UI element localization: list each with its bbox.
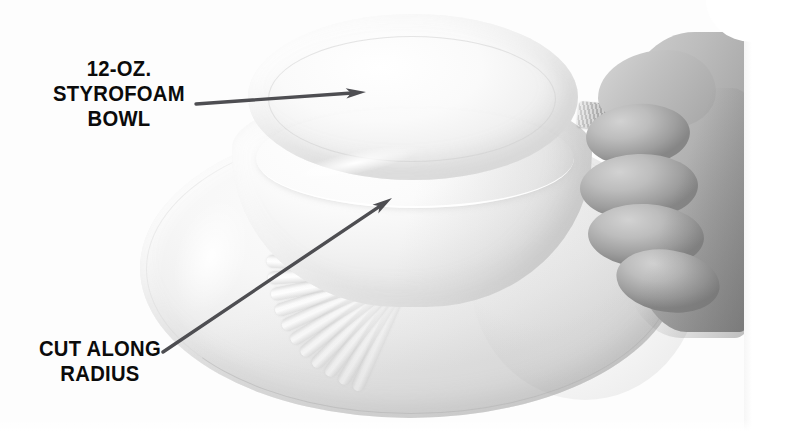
callout-arrow-shaft	[163, 206, 380, 352]
callout-label-styrofoam-bowl: 12-OZ. STYROFOAM BOWL	[37, 56, 201, 131]
callout-label-cut-along-radius: CUT ALONG RADIUS	[21, 336, 179, 386]
callout-arrow-shaft	[196, 93, 352, 104]
figure-canvas: 12-OZ. STYROFOAM BOWL CUT ALONG RADIUS	[0, 0, 787, 431]
annotation-layer: 12-OZ. STYROFOAM BOWL CUT ALONG RADIUS	[0, 0, 787, 431]
